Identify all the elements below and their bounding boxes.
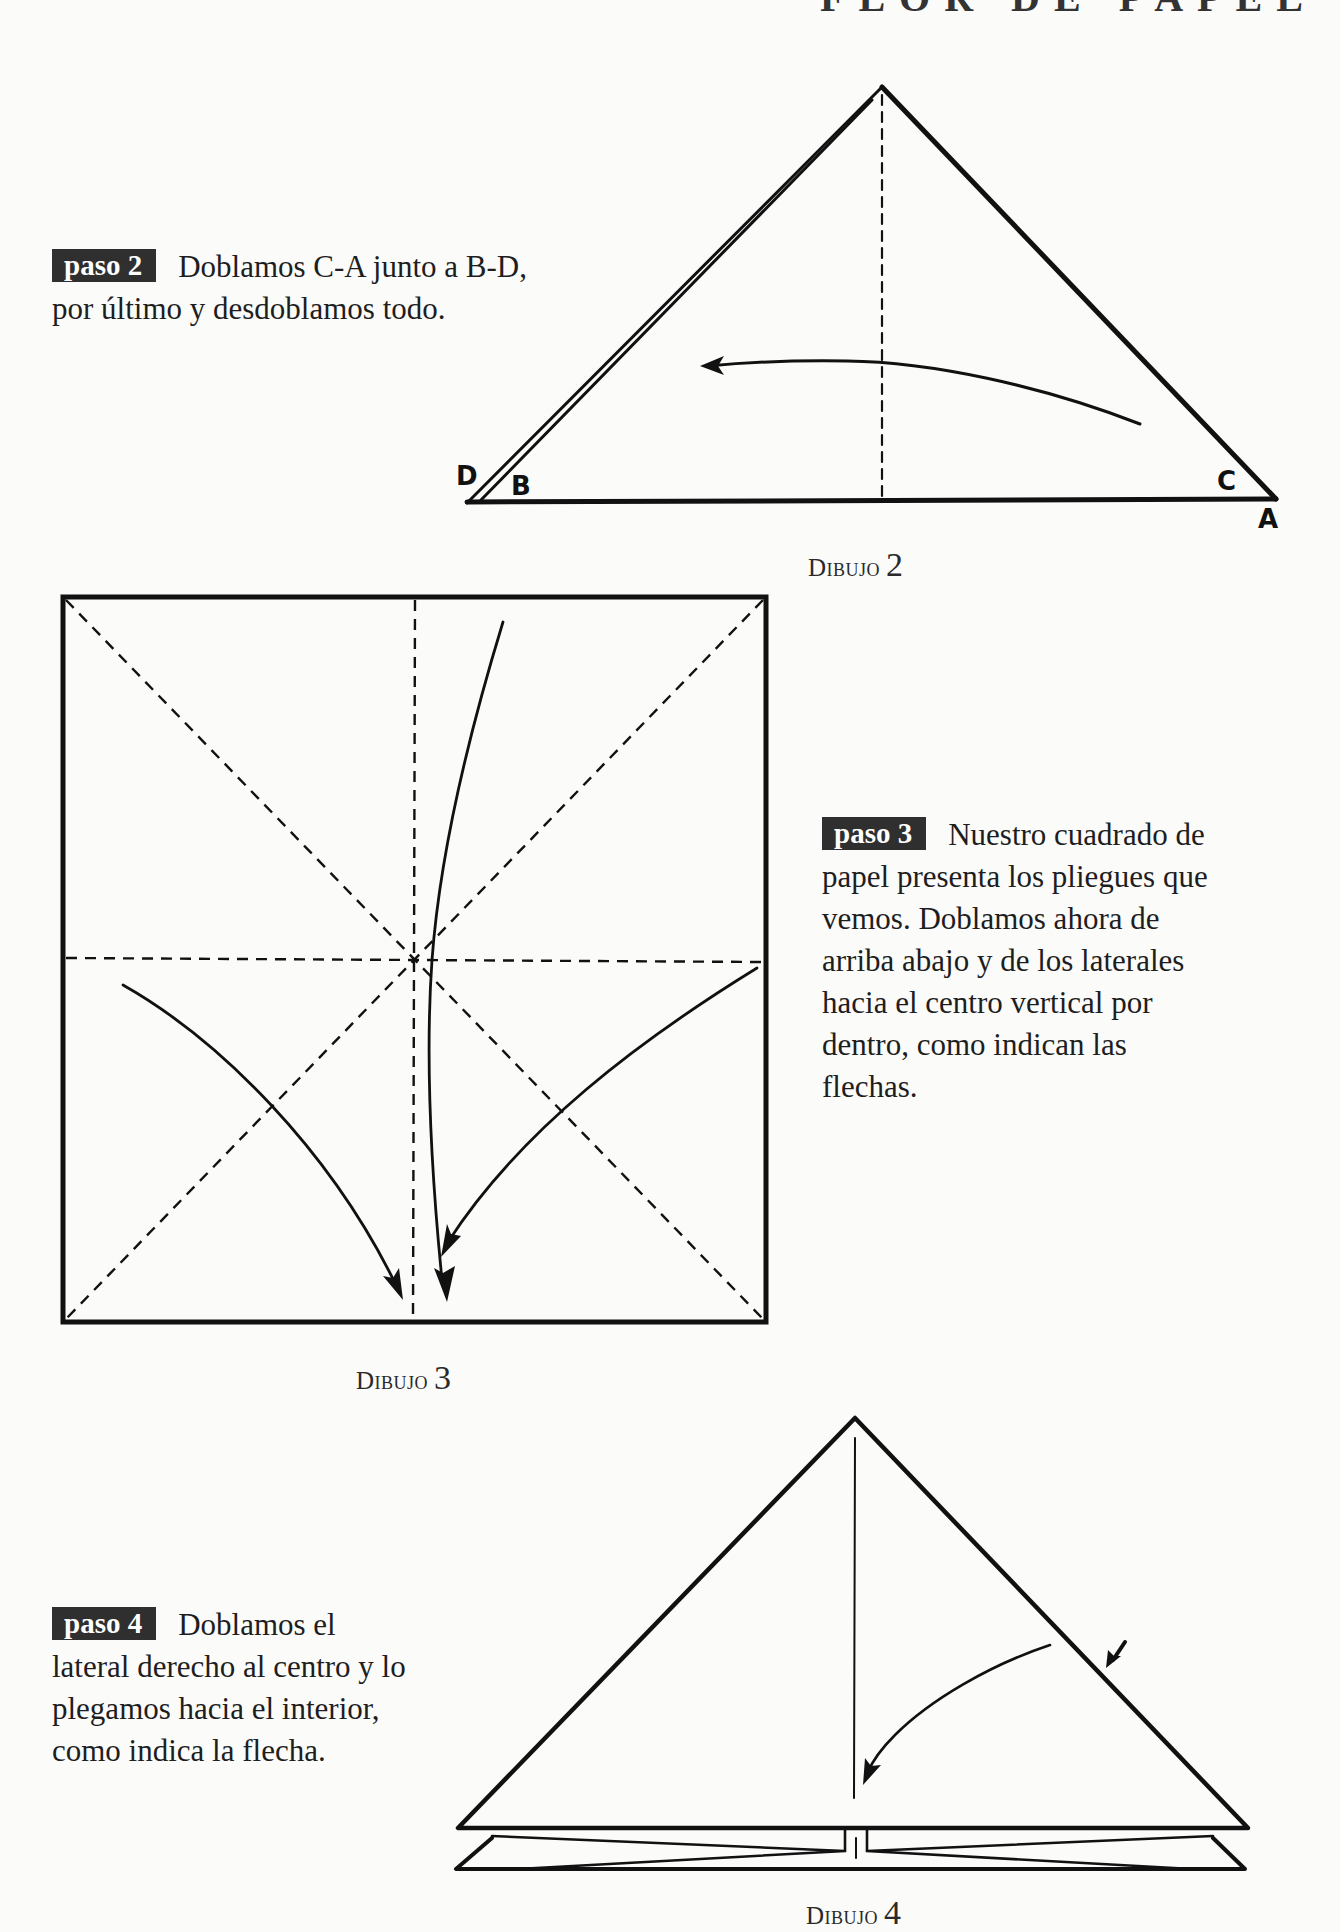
caption-number: 3 [434, 1359, 452, 1396]
step-text-line: hacia el centro vertical por [822, 982, 1322, 1024]
corner-label-c: C [1217, 468, 1236, 494]
diagram-3-square [63, 597, 766, 1322]
step-text-line: Nuestro cuadrado de [948, 817, 1205, 852]
center-crease [854, 1438, 855, 1798]
arrowhead [383, 1268, 403, 1300]
step-text-line: arriba abajo y de los laterales [822, 940, 1322, 982]
step-4-instructions: paso 4Doblamos el lateral derecho al cen… [52, 1604, 472, 1772]
step-text-line: flechas. [822, 1066, 1322, 1108]
fold-arrow-right [448, 968, 757, 1242]
step-text-line: papel presenta los pliegues que [822, 856, 1322, 898]
caption-word: Dibujo [356, 1367, 428, 1394]
arrowhead [434, 1266, 455, 1302]
fold-arrow [708, 361, 1140, 424]
step-text-line: por último y desdoblamos todo. [52, 288, 612, 330]
step-3-instructions: paso 3Nuestro cuadrado de papel presenta… [822, 814, 1322, 1108]
step-text-line: Doblamos el [178, 1607, 336, 1642]
step-text-line: dentro, como indican las [822, 1024, 1322, 1066]
corner-label-d: D [456, 463, 478, 489]
fold-arrow [868, 1645, 1050, 1772]
caption-number: 2 [886, 546, 904, 583]
caption-word: Dibujo [808, 554, 880, 581]
caption-dibujo-4: Dibujo4 [806, 1894, 902, 1932]
caption-number: 4 [884, 1894, 902, 1931]
caption-dibujo-2: Dibujo2 [808, 546, 904, 584]
caption-dibujo-3: Dibujo3 [356, 1359, 452, 1397]
step-2-instructions: paso 2Doblamos C-A junto a B-D, por últi… [52, 246, 612, 330]
diagram-4-triangle [456, 1418, 1248, 1869]
corner-label-b: B [511, 473, 531, 499]
corner-label-a: A [1258, 506, 1278, 532]
step-badge: paso 2 [52, 249, 156, 282]
step-text-line: plegamos hacia el interior, [52, 1688, 472, 1730]
step-text-line: vemos. Doblamos ahora de [822, 898, 1322, 940]
step-text-line: Doblamos C-A junto a B-D, [178, 249, 527, 284]
step-text-line: lateral derecho al centro y lo [52, 1646, 472, 1688]
step-badge: paso 4 [52, 1607, 156, 1640]
step-text-line: como indica la flecha. [52, 1730, 472, 1772]
fold-arrow-left [123, 985, 396, 1285]
caption-word: Dibujo [806, 1902, 878, 1929]
step-badge: paso 3 [822, 817, 926, 850]
